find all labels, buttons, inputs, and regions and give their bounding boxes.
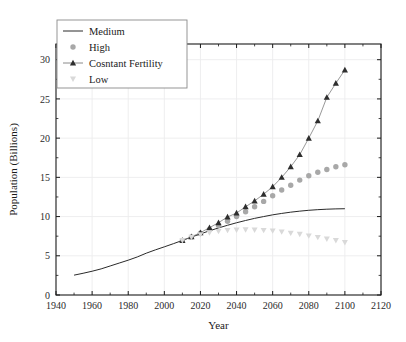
y-axis-title: Population (Billions) xyxy=(7,123,20,216)
data-point xyxy=(252,227,258,232)
data-point xyxy=(270,228,276,233)
population-projection-chart: 1940196019802000202020402060208021002120… xyxy=(0,0,406,342)
legend-label: Low xyxy=(89,74,109,85)
y-tick-label-30: 30 xyxy=(40,54,50,65)
data-point xyxy=(234,227,240,232)
chart-canvas: 1940196019802000202020402060208021002120… xyxy=(0,0,406,342)
y-tick-label-15: 15 xyxy=(40,172,50,183)
data-point xyxy=(306,173,311,178)
x-tick-label-2000: 2000 xyxy=(154,300,174,311)
x-tick-label-2120: 2120 xyxy=(371,300,391,311)
y-tick-label-25: 25 xyxy=(40,94,50,105)
x-tick-label-2100: 2100 xyxy=(335,300,355,311)
data-point xyxy=(333,238,339,243)
data-point xyxy=(243,227,249,232)
data-point xyxy=(288,231,294,236)
constant-fertility-line xyxy=(182,70,345,241)
legend-label: High xyxy=(89,42,111,53)
data-point xyxy=(342,240,348,245)
data-point xyxy=(261,228,267,233)
data-point xyxy=(233,210,239,216)
data-point xyxy=(261,199,266,204)
chart-legend[interactable]: MediumHighCosntant FertilityLow xyxy=(57,20,187,88)
axis-tick-labels: 1940196019802000202020402060208021002120… xyxy=(40,54,391,311)
x-axis-title: Year xyxy=(208,319,229,331)
data-point xyxy=(324,237,330,242)
data-point xyxy=(315,118,321,124)
data-point xyxy=(333,164,338,169)
data-point xyxy=(315,170,320,175)
data-series xyxy=(74,67,348,275)
data-point xyxy=(206,225,212,231)
data-point xyxy=(324,167,329,172)
x-tick-label-1960: 1960 xyxy=(82,300,102,311)
data-point xyxy=(279,187,284,192)
data-point xyxy=(216,229,222,234)
data-point xyxy=(324,94,330,100)
x-tick-label-2080: 2080 xyxy=(299,300,319,311)
data-point xyxy=(306,233,312,238)
data-point xyxy=(242,204,248,210)
data-point xyxy=(206,230,212,235)
x-tick-label-2060: 2060 xyxy=(263,300,283,311)
x-tick-label-2040: 2040 xyxy=(227,300,247,311)
y-tick-label-10: 10 xyxy=(40,211,50,222)
series-medium xyxy=(74,209,345,275)
legend-circle-marker-icon xyxy=(70,44,75,49)
data-point xyxy=(315,235,321,240)
y-tick-label-0: 0 xyxy=(45,290,50,301)
data-point xyxy=(270,193,275,198)
legend-label: Cosntant Fertility xyxy=(89,58,164,69)
data-point xyxy=(333,80,339,86)
data-point xyxy=(252,198,258,204)
data-point xyxy=(279,229,285,234)
x-tick-label-1980: 1980 xyxy=(118,300,138,311)
data-point xyxy=(215,219,221,225)
data-point xyxy=(297,151,303,157)
data-point xyxy=(261,191,267,197)
legend-label: Medium xyxy=(89,26,125,37)
data-point xyxy=(243,209,248,214)
data-point xyxy=(288,182,293,187)
data-point xyxy=(225,228,231,233)
medium-line xyxy=(74,209,345,275)
x-tick-label-2020: 2020 xyxy=(190,300,210,311)
y-tick-label-20: 20 xyxy=(40,133,50,144)
x-tick-label-1940: 1940 xyxy=(46,300,66,311)
data-point xyxy=(297,177,302,182)
data-point xyxy=(297,232,303,237)
y-tick-label-5: 5 xyxy=(45,250,50,261)
data-point xyxy=(252,204,257,209)
data-point xyxy=(342,67,348,73)
data-point xyxy=(342,162,347,167)
